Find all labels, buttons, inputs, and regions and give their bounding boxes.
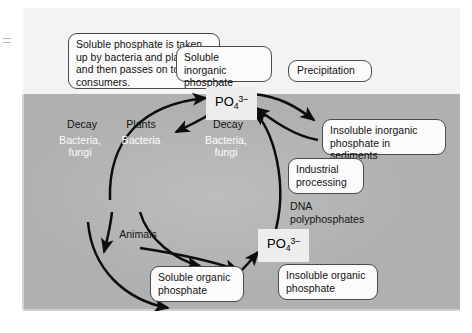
label-decay-left: Decay — [67, 118, 97, 130]
label-bacteria-center: Bacteria — [122, 134, 161, 146]
soluble-inorganic-phosphate-box: Soluble inorganic phosphate — [176, 46, 272, 82]
label-dna-line2: polyphosphates — [290, 213, 364, 225]
phosphate-chip-upper: PO43– — [206, 87, 257, 120]
panel-bottom-edge — [22, 309, 460, 311]
phosphorus-cycle-figure: Soluble phosphate is taken up by bacteri… — [0, 0, 472, 333]
phosphate-chip-lower: PO43– — [258, 229, 309, 262]
phosphate-lower-sup: 3– — [291, 236, 301, 246]
phosphate-upper-sup: 3– — [239, 94, 249, 104]
label-bacteria-fungi-center-line2: fungi — [215, 146, 238, 158]
industrial-processing-box: Industrial processing — [288, 158, 364, 194]
label-animals: Animals — [119, 228, 157, 240]
insoluble-organic-phosphate-box: Insoluble organic phosphate — [278, 264, 378, 300]
insoluble-inorganic-phosphate-box: Insoluble inorganic phosphate in sedimen… — [322, 119, 446, 155]
soluble-organic-phosphate-label: Soluble organic phosphate — [158, 272, 230, 296]
margin-tick-icon — [3, 38, 11, 39]
soluble-organic-phosphate-box: Soluble organic phosphate — [150, 266, 244, 302]
precipitation-label: Precipitation — [297, 65, 355, 76]
phosphate-lower-formula: PO — [267, 236, 286, 251]
label-plants: Plants — [126, 118, 155, 130]
label-bacteria-fungi-center-line1: Bacteria, — [205, 134, 247, 146]
diagram-panel: Soluble phosphate is taken up by bacteri… — [22, 8, 460, 311]
label-decay-center: Decay — [213, 118, 243, 130]
panel-left-edge — [22, 8, 24, 311]
phosphate-upper-formula: PO — [215, 94, 234, 109]
industrial-processing-label: Industrial processing — [296, 164, 347, 188]
label-bacteria-fungi-left-line1: Bacteria, — [59, 134, 101, 146]
insoluble-organic-phosphate-label: Insoluble organic phosphate — [286, 270, 365, 294]
margin-tick-icon — [3, 42, 11, 43]
precipitation-box: Precipitation — [288, 60, 372, 82]
soluble-inorganic-phosphate-label: Soluble inorganic phosphate — [184, 52, 233, 88]
label-bacteria-fungi-left-line2: fungi — [69, 146, 92, 158]
label-dna-line1: DNA — [290, 200, 312, 212]
